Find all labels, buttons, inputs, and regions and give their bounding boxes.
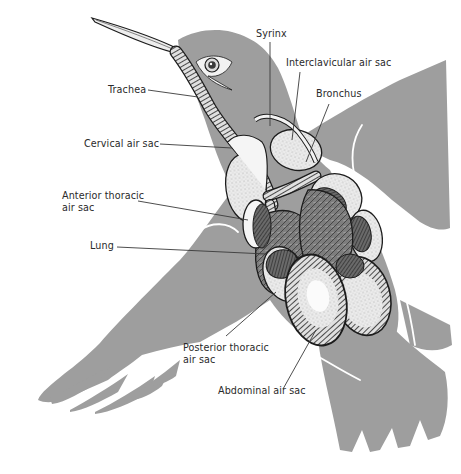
leader-abdominal — [283, 330, 316, 389]
label-cervical-air-sac: Cervical air sac — [84, 138, 159, 150]
bird-respiratory-illustration — [0, 0, 461, 474]
label-anterior-thoracic-line2: air sac — [62, 202, 144, 214]
label-posterior-thoracic-line2: air sac — [183, 354, 269, 366]
beak — [92, 18, 180, 54]
label-abdominal-air-sac: Abdominal air sac — [218, 385, 306, 397]
label-syrinx: Syrinx — [256, 28, 287, 40]
label-anterior-thoracic-line1: Anterior thoracic — [62, 190, 144, 202]
leader-trachea — [148, 90, 198, 97]
anterior-thoracic-air-sac — [243, 200, 271, 248]
label-posterior-thoracic-air-sac: Posterior thoracic air sac — [183, 342, 269, 365]
label-anterior-thoracic-air-sac: Anterior thoracic air sac — [62, 190, 144, 213]
label-bronchus: Bronchus — [316, 88, 362, 100]
label-lung: Lung — [90, 240, 114, 252]
label-posterior-thoracic-line1: Posterior thoracic — [183, 342, 269, 354]
diagram-canvas: Syrinx Interclavicular air sac Trachea B… — [0, 0, 461, 474]
label-interclavicular-air-sac: Interclavicular air sac — [286, 57, 391, 69]
label-trachea: Trachea — [108, 84, 146, 96]
